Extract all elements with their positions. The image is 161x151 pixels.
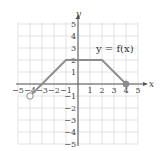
- y-tick-label: 3: [71, 44, 76, 53]
- y-tick-label: −5: [64, 140, 76, 149]
- open-endpoint: [27, 93, 33, 99]
- axes: [16, 14, 148, 146]
- y-tick-label: −2: [64, 104, 76, 113]
- x-axis-label: x: [149, 79, 154, 89]
- y-tick-label: 5: [71, 20, 76, 29]
- x-tick-label: 3: [111, 86, 116, 95]
- closed-endpoint: [123, 81, 129, 87]
- y-tick-label: −1: [64, 92, 76, 101]
- x-axis-arrow-icon: [143, 82, 148, 86]
- function-label: y = f(x): [95, 43, 134, 54]
- y-tick-label: −4: [64, 128, 76, 137]
- x-tick-label: 1: [87, 86, 92, 95]
- y-tick-label: −3: [64, 116, 76, 125]
- x-tick-label: −5: [12, 86, 24, 95]
- x-tick-label: −2: [48, 86, 60, 95]
- function-graph: −5−4−3−2−112345−5−4−3−2−112345 y = f(x) …: [0, 0, 161, 151]
- x-tick-label: 2: [99, 86, 104, 95]
- x-tick-label: 5: [135, 86, 140, 95]
- y-tick-label: 1: [71, 68, 76, 77]
- y-axis-label: y: [75, 9, 82, 19]
- y-tick-label: 4: [71, 32, 76, 41]
